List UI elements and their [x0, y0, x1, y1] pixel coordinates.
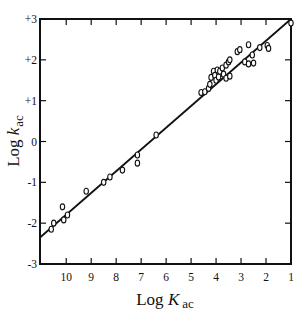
- y-axis-ticks: +3+2+10-1-2-3: [25, 13, 291, 270]
- x-axis-ticks: 10987654321: [60, 19, 294, 283]
- x-tick-label: 6: [163, 271, 169, 283]
- chart: 10987654321 +3+2+10-1-2-3 Log Kac Log ka…: [0, 0, 305, 315]
- data-point: [52, 220, 56, 226]
- data-point: [49, 226, 53, 232]
- y-tick-label: -2: [27, 217, 37, 229]
- x-axis-title: Log Kac: [136, 290, 194, 311]
- x-tick-label: 2: [263, 271, 269, 283]
- data-point: [154, 132, 158, 138]
- data-point: [208, 81, 212, 87]
- x-tick-label: 9: [88, 271, 94, 283]
- y-tick-label: 0: [31, 136, 37, 148]
- x-tick-label: 5: [188, 271, 194, 283]
- data-point: [228, 73, 232, 79]
- x-tick-label: 7: [138, 271, 144, 283]
- data-point: [101, 179, 105, 185]
- data-point: [120, 167, 124, 173]
- y-tick-label: -3: [27, 258, 37, 270]
- data-point: [246, 61, 250, 67]
- data-point: [266, 45, 270, 51]
- x-tick-label: 1: [288, 271, 294, 283]
- data-point: [135, 152, 139, 158]
- data-point: [62, 217, 66, 223]
- data-point: [135, 160, 139, 166]
- data-point: [246, 42, 250, 48]
- x-tick-label: 8: [113, 271, 119, 283]
- data-point: [250, 52, 254, 58]
- data-point: [216, 74, 220, 80]
- y-axis-title: Log kac: [4, 115, 26, 167]
- y-tick-label: +3: [25, 13, 37, 25]
- data-point: [238, 47, 242, 53]
- x-tick-label: 3: [238, 271, 244, 283]
- data-point: [228, 57, 232, 63]
- data-points: [49, 20, 293, 232]
- data-point: [108, 174, 112, 180]
- data-point: [84, 188, 88, 194]
- data-point: [65, 212, 69, 218]
- data-point: [289, 20, 293, 26]
- y-tick-label: +2: [25, 54, 37, 66]
- data-point: [60, 204, 64, 210]
- y-tick-label: +1: [25, 95, 37, 107]
- data-point: [258, 45, 262, 51]
- y-tick-label: -1: [27, 176, 37, 188]
- x-tick-label: 4: [213, 271, 219, 283]
- x-tick-label: 10: [60, 271, 72, 283]
- data-point: [251, 60, 255, 66]
